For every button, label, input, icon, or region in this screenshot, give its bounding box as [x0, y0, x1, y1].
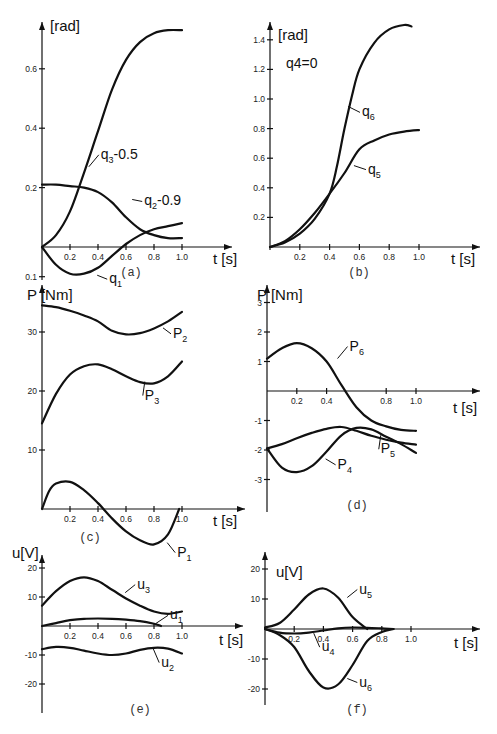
x-axis-arrow-icon — [235, 623, 243, 629]
series-label-u2: u2 — [161, 654, 174, 673]
x-tick-label: 0.6 — [353, 252, 365, 262]
series-label-q5: q5 — [368, 161, 381, 180]
leader-line — [97, 275, 107, 279]
panel-e: 0.20.40.60.81.01020-10-20u[V]t [s](e)u3u… — [12, 544, 243, 717]
y-tick-label: 10 — [28, 592, 38, 602]
y-tick-label: -10 — [25, 650, 38, 660]
x-tick-label: 0.2 — [64, 252, 76, 262]
x-axis-label: t [s] — [219, 631, 243, 648]
leader-line — [338, 347, 348, 359]
y-tick-label: -3 — [254, 475, 262, 485]
series-label-P1: P1 — [177, 544, 191, 563]
x-tick-label: 0.4 — [92, 631, 104, 641]
y-tick-label: 1 — [257, 357, 262, 367]
curve-P6 — [267, 343, 416, 431]
y-tick-label: -2 — [254, 445, 262, 455]
y-tick-label: 10 — [28, 445, 38, 455]
series-label-P6: P6 — [350, 338, 364, 357]
series-label-u6: u6 — [359, 674, 372, 693]
y-tick-label: 0.2 — [25, 183, 37, 193]
series-label-u4: u4 — [322, 638, 335, 657]
y-axis-arrow-icon — [39, 22, 45, 30]
series-label-q2-0.9: q2-0.9 — [144, 192, 181, 211]
series-label-u1: u1 — [170, 606, 183, 625]
panel-caption: (c) — [79, 531, 101, 545]
x-tick-label: 0.2 — [64, 514, 76, 524]
y-tick-label: 20 — [28, 563, 38, 573]
x-axis-arrow-icon — [472, 626, 480, 632]
x-axis-arrow-icon — [472, 388, 480, 394]
y-tick-label: 20 — [28, 386, 38, 396]
y-tick-label: -10 — [248, 654, 261, 664]
x-tick-label: 0.2 — [291, 396, 303, 406]
y-axis-arrow-icon — [39, 555, 45, 563]
y-tick-label: 0.1 — [25, 272, 37, 282]
series-label-P5: P5 — [381, 440, 395, 459]
panel-caption: (e) — [129, 703, 151, 717]
x-tick-label: 0.6 — [347, 634, 359, 644]
leader-line — [354, 166, 366, 170]
panel-f: 0.20.40.60.81.01020-10-20u[V]t [s](f)u5u… — [248, 552, 480, 717]
curve-q3-0.5 — [42, 30, 182, 247]
leader-line — [167, 543, 175, 553]
x-tick-label: 1.0 — [176, 252, 188, 262]
curve-u1 — [42, 619, 161, 627]
series-label-P4: P4 — [338, 456, 352, 475]
y-tick-label: 2 — [257, 327, 262, 337]
x-axis-label: t [s] — [453, 399, 477, 416]
panel-d: 0.20.40.81.0123-1-2-3P [Nm]t [s](d)P6P5P… — [254, 285, 480, 513]
panel-caption: (b) — [348, 266, 370, 280]
leader-line — [347, 590, 357, 598]
panel-a: 0.20.40.60.81.00.20.40.60.1[rad]t [s](a)… — [25, 17, 237, 289]
y-axis-arrow-icon — [267, 22, 273, 30]
curve-P2 — [42, 305, 182, 334]
curve-q5 — [270, 130, 419, 247]
y-axis-label: u[V] — [276, 563, 303, 580]
leader-line — [132, 199, 142, 201]
x-axis-label: t [s] — [454, 634, 478, 651]
x-tick-label: 0.8 — [148, 514, 160, 524]
x-tick-label: 0.4 — [324, 252, 336, 262]
x-tick-label: 0.4 — [321, 396, 333, 406]
y-tick-label: 0.8 — [253, 124, 265, 134]
y-axis-label: [rad] — [50, 17, 80, 34]
leader-line — [347, 679, 357, 683]
panel-caption: (f) — [346, 703, 368, 717]
leader-line — [125, 585, 135, 593]
y-tick-label: 1.0 — [253, 94, 265, 104]
x-axis-arrow-icon — [237, 506, 245, 512]
y-tick-label: 0.2 — [253, 212, 265, 222]
x-axis-label: t [s] — [213, 250, 237, 267]
series-label-u5: u5 — [359, 581, 372, 600]
x-axis-label: t [s] — [213, 512, 237, 529]
panel-caption: (a) — [120, 266, 142, 280]
y-tick-label: 0.4 — [253, 183, 265, 193]
y-axis-label: P [Nm] — [27, 286, 73, 303]
x-tick-label: 0.8 — [148, 252, 160, 262]
x-tick-label: 0.8 — [148, 631, 160, 641]
x-tick-label: 1.0 — [413, 252, 425, 262]
y-axis-arrow-icon — [262, 552, 268, 560]
y-tick-label: 0.4 — [25, 123, 37, 133]
x-tick-label: 0.2 — [294, 252, 306, 262]
y-tick-label: 10 — [251, 594, 261, 604]
series-label-P2: P2 — [173, 325, 187, 344]
leader-line — [326, 459, 336, 465]
y-tick-label: -20 — [248, 684, 261, 694]
x-tick-label: 0.8 — [383, 252, 395, 262]
curve-u3 — [42, 577, 182, 614]
panel-c: 0.20.40.60.81.0102030P [Nm]t [s](c)P2P3P… — [27, 285, 245, 563]
curve-P3 — [42, 362, 182, 424]
y-tick-label: -20 — [25, 679, 38, 689]
annotation: q4=0 — [286, 55, 318, 71]
x-tick-label: 0.8 — [380, 396, 392, 406]
x-tick-label: 0.2 — [64, 631, 76, 641]
x-tick-label: 1.0 — [410, 396, 422, 406]
x-tick-label: 1.0 — [405, 634, 417, 644]
curve-u4 — [265, 627, 394, 633]
curve-P5 — [267, 427, 416, 449]
panel-b: 0.20.40.60.81.00.20.40.60.81.01.21.4[rad… — [253, 22, 480, 280]
y-tick-label: 0.6 — [253, 153, 265, 163]
y-axis-label: u[V] — [12, 544, 39, 561]
x-tick-label: 1.0 — [176, 514, 188, 524]
